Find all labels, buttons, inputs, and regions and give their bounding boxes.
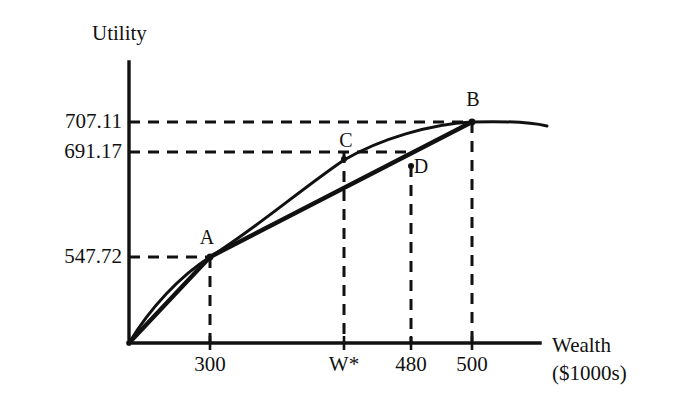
point-label-b: B <box>456 88 490 110</box>
y-tick-label-707: 707.11 <box>27 110 122 134</box>
utility-wealth-figure: Utility 707.11 691.17 547.72 300 W* 480 … <box>0 0 689 418</box>
point-marker-a <box>207 254 214 261</box>
y-tick-label-547: 547.72 <box>27 245 122 269</box>
x-tick-label-300: 300 <box>176 353 244 377</box>
x-axis-unit-label: ($1000s) <box>552 362 627 386</box>
y-tick-label-691: 691.17 <box>27 140 122 164</box>
chord-origin-to-a <box>129 257 210 343</box>
point-label-c: C <box>329 129 363 151</box>
x-tick-label-wstar: W* <box>310 353 378 377</box>
y-axis-title: Utility <box>92 22 147 46</box>
x-tick-label-500: 500 <box>438 353 506 377</box>
point-label-a: A <box>190 226 224 248</box>
point-marker-b <box>469 119 476 126</box>
x-tick-label-480: 480 <box>377 353 445 377</box>
x-axis-title: Wealth <box>552 334 611 358</box>
point-marker-c <box>341 156 347 162</box>
point-label-d: D <box>404 155 438 177</box>
